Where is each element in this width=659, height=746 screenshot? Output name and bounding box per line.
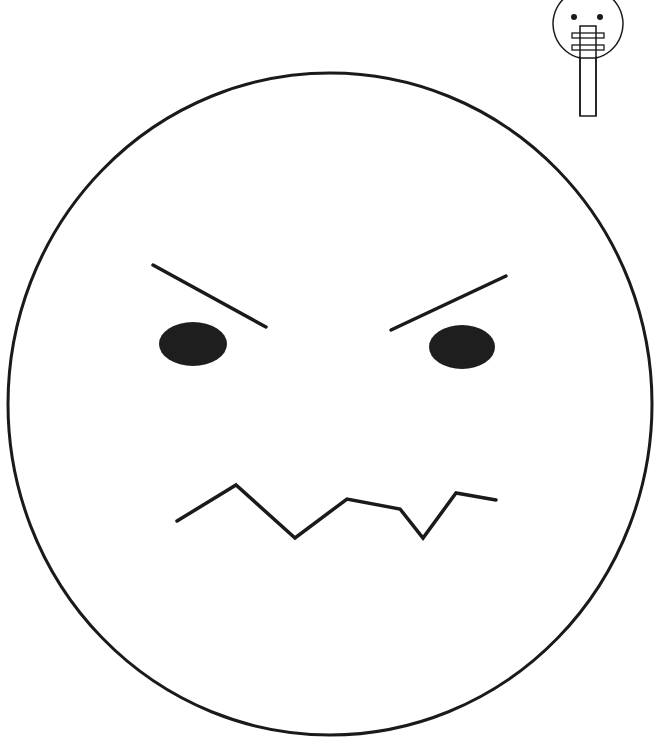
mini-left-eye (571, 14, 577, 20)
face (8, 73, 652, 735)
mini-stick-top (580, 26, 596, 58)
right-eye (429, 325, 495, 369)
face-on-stick-icon (553, 0, 623, 116)
angry-face-drawing (0, 0, 659, 746)
mini-right-eye (597, 14, 603, 20)
left-eye (159, 322, 227, 366)
face-outline (8, 73, 652, 735)
